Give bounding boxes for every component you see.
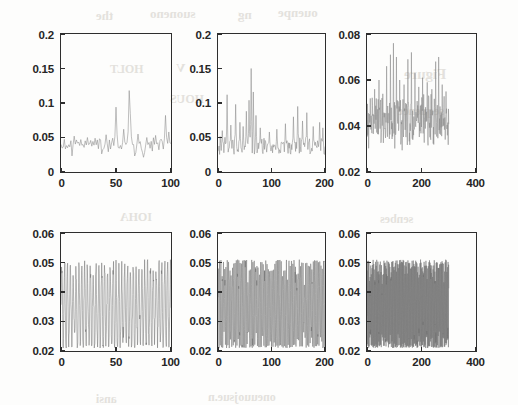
panel-top-right-xtick-label: 200 [412, 177, 431, 189]
panel-bottom-right-ytick-mark [367, 321, 371, 322]
panel-top-middle-ytick-mark [218, 102, 222, 103]
panel-bottom-left-series-line [61, 260, 171, 348]
panel-top-right-trace-canvas [367, 34, 476, 172]
panel-top-left-xtick-label: 100 [161, 177, 180, 189]
panel-bottom-right-series-line [367, 260, 449, 348]
panel-top-right-xtick-label: 400 [466, 177, 485, 189]
panel-top-right-series-line [367, 43, 449, 150]
panel-top-right-xtick-label: 0 [364, 177, 370, 189]
panel-top-left-xtick-label: 50 [110, 177, 122, 189]
panel-top-left-xtick-label: 0 [58, 177, 64, 189]
panel-bottom-right-ytick-mark [367, 262, 371, 263]
panel-top-right-ytick-label: 0.02 [0, 166, 360, 178]
panel-top-right-ytick-label: 0.06 [0, 74, 360, 86]
panel-bottom-right-ytick-mark [367, 291, 371, 292]
panel-top-right-ytick-label: 0.08 [0, 29, 360, 41]
panel-bottom-right-ytick-label: 0.05 [0, 257, 360, 269]
panel-bottom-left-xtick-label: 50 [110, 356, 122, 368]
panel-top-middle-ytick-label: 0.05 [0, 131, 211, 143]
panel-top-middle-ytick-mark [218, 68, 222, 69]
panel-bottom-right-xtick-label: 400 [466, 356, 485, 368]
panel-top-middle-ytick-label: 0.15 [0, 63, 211, 75]
panel-top-right-xtick-mark [421, 168, 422, 172]
panel-top-right-ytick-mark [367, 125, 371, 126]
panel-bottom-right-xtick-mark [475, 347, 476, 351]
panel-top-middle-trace-canvas [218, 34, 325, 172]
panel-top-middle-plot-area [217, 33, 326, 173]
panel-top-middle-xtick-label: 0 [215, 177, 221, 189]
panel-bottom-right-ytick-label: 0.04 [0, 286, 360, 298]
panel-top-right-xtick-mark [475, 168, 476, 172]
panel-top-right-plot-area [366, 33, 477, 173]
panel-top-middle-xtick-label: 200 [315, 177, 334, 189]
panel-bottom-right-xtick-label: 200 [412, 356, 431, 368]
panel-bottom-right-plot-area [366, 232, 477, 352]
panel-top-middle-xtick-label: 100 [262, 177, 281, 189]
panel-bottom-middle-xtick-label: 100 [262, 356, 281, 368]
panel-bottom-right-trace-canvas [367, 233, 476, 351]
panel-top-middle-ytick-label: 0.1 [0, 97, 211, 109]
panel-bottom-right-ytick-label: 0.06 [0, 228, 360, 240]
panel-bottom-right-xtick-label: 0 [364, 356, 370, 368]
panel-bottom-middle-xtick-label: 0 [215, 356, 221, 368]
panel-bottom-right-xtick-mark [367, 347, 368, 351]
panel-top-middle-ytick-mark [218, 137, 222, 138]
panel-bottom-middle-series-line [218, 260, 325, 348]
panel-bottom-right-ytick-label: 0.02 [0, 345, 360, 357]
panel-top-right-ytick-label: 0.04 [0, 120, 360, 132]
six-panel-figure: 00.050.10.150.205010000.050.10.150.20100… [0, 0, 518, 405]
panel-bottom-right-ytick-mark [367, 233, 371, 234]
panel-bottom-middle-xtick-label: 200 [315, 356, 334, 368]
panel-top-right-ytick-mark [367, 79, 371, 80]
panel-bottom-left-xtick-label: 0 [58, 356, 64, 368]
panel-bottom-left-xtick-label: 100 [161, 356, 180, 368]
panel-bottom-right-xtick-mark [421, 347, 422, 351]
panel-top-right-xtick-mark [367, 168, 368, 172]
panel-bottom-right-ytick-label: 0.03 [0, 315, 360, 327]
panel-top-right-ytick-mark [367, 34, 371, 35]
